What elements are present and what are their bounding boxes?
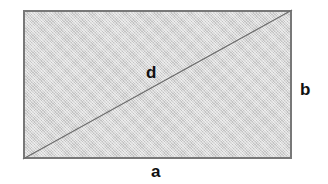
rectangle-shape <box>23 10 292 159</box>
diagonal-label: d <box>146 64 156 81</box>
geometry-diagram: d b a <box>0 0 328 184</box>
width-label: a <box>151 163 160 180</box>
height-label: b <box>300 81 310 98</box>
